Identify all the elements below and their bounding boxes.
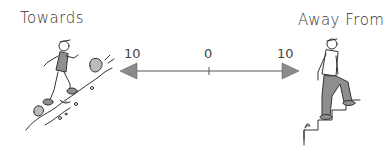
- person-walking-upstairs-illustration: [304, 39, 360, 145]
- diagram-canvas: [0, 0, 387, 153]
- bidirectional-scale-arrow: [120, 63, 299, 79]
- person-running-uphill-illustration: [26, 40, 114, 130]
